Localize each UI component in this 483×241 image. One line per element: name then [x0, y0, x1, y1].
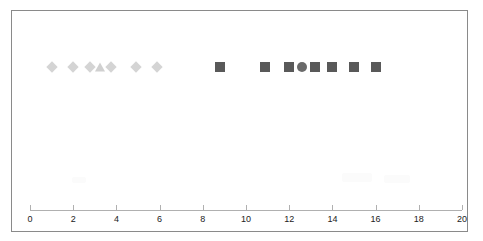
x-tick	[203, 205, 204, 210]
data-point-square	[327, 62, 337, 72]
scan-artifact	[72, 177, 86, 183]
x-tick	[462, 205, 463, 210]
x-tick-label: 10	[241, 214, 251, 225]
x-tick	[160, 205, 161, 210]
data-point-diamond	[105, 61, 116, 72]
data-point-triangle	[95, 63, 105, 72]
data-point-square	[371, 62, 381, 72]
x-tick-label: 2	[71, 214, 76, 225]
data-point-diamond	[152, 61, 163, 72]
x-tick	[332, 205, 333, 210]
data-point-square	[215, 62, 225, 72]
scan-artifact	[384, 175, 410, 183]
plot-area: 02468101214161820	[12, 11, 467, 231]
data-point-square	[349, 62, 359, 72]
x-tick	[30, 205, 31, 210]
x-tick	[73, 205, 74, 210]
data-point-square	[284, 62, 294, 72]
data-point-diamond	[130, 61, 141, 72]
data-point-diamond	[46, 61, 57, 72]
chart-figure: 02468101214161820	[11, 10, 468, 232]
data-point-square	[310, 62, 320, 72]
x-tick-label: 20	[457, 214, 467, 225]
x-tick-label: 16	[371, 214, 381, 225]
x-tick-label: 14	[327, 214, 337, 225]
data-point-diamond	[68, 61, 79, 72]
data-point-square	[260, 62, 270, 72]
x-tick-label: 18	[414, 214, 424, 225]
data-point-circle	[297, 62, 307, 72]
x-tick	[376, 205, 377, 210]
x-tick-label: 12	[284, 214, 294, 225]
x-tick	[246, 205, 247, 210]
scan-artifact	[342, 173, 372, 182]
x-axis-line	[30, 210, 462, 211]
x-tick-label: 4	[114, 214, 119, 225]
x-tick-label: 8	[200, 214, 205, 225]
x-tick-label: 6	[157, 214, 162, 225]
x-tick-label: 0	[27, 214, 32, 225]
x-tick	[419, 205, 420, 210]
x-tick	[289, 205, 290, 210]
x-tick	[116, 205, 117, 210]
